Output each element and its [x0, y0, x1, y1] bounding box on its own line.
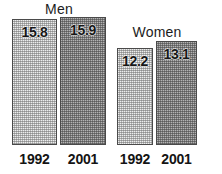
bar-men-2001: 15.9 [60, 17, 106, 145]
bar-value-men-2001: 15.9 [61, 22, 105, 38]
bar-women-2001: 13.1 [156, 41, 197, 145]
bar-women-1992: 12.2 [117, 48, 153, 145]
x-tick-men-1992: 1992 [12, 151, 57, 167]
bar-value-women-1992: 12.2 [118, 53, 152, 69]
x-tick-men-2001: 2001 [60, 151, 106, 167]
group-title-men: Men [12, 1, 106, 17]
x-tick-women-2001: 2001 [156, 151, 197, 167]
x-tick-women-1992: 1992 [117, 151, 153, 167]
bar-value-women-2001: 13.1 [157, 46, 196, 62]
bar-value-men-1992: 15.8 [13, 24, 56, 40]
group-title-women: Women [116, 24, 198, 40]
bar-men-1992: 15.8 [12, 19, 57, 145]
bar-chart: Men 15.8 15.9 1992 2001 Women 12.2 13.1 … [0, 0, 222, 174]
